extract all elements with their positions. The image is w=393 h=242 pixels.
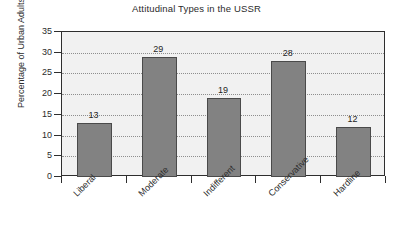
y-axis-tick-mark	[54, 52, 61, 53]
y-axis-tick-label: 10	[6, 130, 52, 140]
y-axis-tick-label: 35	[6, 26, 52, 36]
y-axis-tick-mark	[54, 135, 61, 136]
x-axis-category-label: Liberal	[72, 172, 98, 198]
y-axis-tick-mark	[54, 72, 61, 73]
gridline	[62, 73, 384, 74]
y-axis-tick-mark	[54, 114, 61, 115]
y-axis-tick-label: 30	[6, 47, 52, 57]
y-axis-tick-label: 0	[6, 171, 52, 181]
y-axis-tick-mark	[54, 176, 61, 177]
bar-value-label: 13	[88, 110, 98, 120]
bar	[207, 98, 242, 177]
bar-chart: Attitudinal Types in the USSR Percentage…	[0, 0, 393, 242]
bar-value-label: 19	[218, 85, 228, 95]
y-axis-tick-label: 25	[6, 67, 52, 77]
x-axis-tick-mark	[61, 176, 62, 183]
x-axis-tick-mark	[191, 176, 192, 183]
bar-value-label: 12	[348, 114, 358, 124]
gridline	[62, 53, 384, 54]
bar	[142, 57, 177, 177]
x-axis-tick-mark	[320, 176, 321, 183]
x-axis-tick-mark	[126, 176, 127, 183]
x-axis-tick-mark	[385, 176, 386, 183]
y-axis-tick-mark	[54, 93, 61, 94]
bar	[77, 123, 112, 177]
chart-title: Attitudinal Types in the USSR	[0, 3, 393, 14]
bar-value-label: 28	[283, 48, 293, 58]
y-axis-tick-mark	[54, 155, 61, 156]
y-axis-tick-label: 15	[6, 109, 52, 119]
bar-value-label: 29	[153, 44, 163, 54]
y-axis-tick-label: 5	[6, 150, 52, 160]
x-axis-tick-mark	[255, 176, 256, 183]
y-axis-tick-mark	[54, 31, 61, 32]
y-axis-tick-label: 20	[6, 88, 52, 98]
plot-area	[61, 31, 385, 176]
